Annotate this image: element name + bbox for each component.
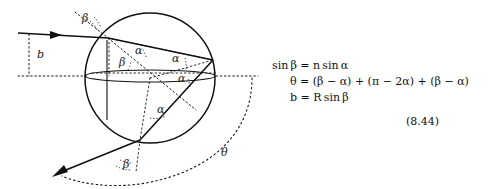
arc-alpha-bottom	[150, 116, 166, 118]
label-alpha-bottom: α	[157, 103, 165, 116]
solid-lines	[18, 13, 215, 174]
label-alpha-upper-right: α	[172, 52, 180, 65]
equation-theta: θ = (β − α) + (π − 2α) + (β − α)	[272, 74, 469, 90]
label-beta-exit: β	[122, 158, 129, 171]
arc-beta-entry	[128, 62, 131, 70]
construction-lines	[18, 12, 258, 186]
label-beta-entry: β	[118, 56, 125, 69]
equation-block: sin β = n sin α θ = (β − α) + (π − 2α) +…	[272, 58, 469, 106]
incoming-ray	[18, 33, 108, 38]
arc-alpha-entry	[142, 48, 146, 57]
arc-alpha-upper-right	[185, 58, 186, 70]
outgoing-arrowhead	[52, 165, 68, 177]
theta-arc	[62, 78, 252, 186]
label-alpha-entry: α	[135, 44, 143, 57]
equation-impact-parameter: b = R sin β	[272, 90, 469, 106]
equation-number: (8.44)	[406, 115, 439, 128]
equation-snell: sin β = n sin α	[272, 58, 469, 74]
equator-ellipse	[85, 70, 215, 82]
arrowheads	[50, 31, 68, 177]
label-alpha-lower-right: α	[178, 72, 186, 85]
incoming-arrowhead	[50, 31, 62, 39]
normal-at-exit-extended	[136, 140, 140, 172]
label-theta: θ	[221, 146, 228, 159]
label-b-impact: b	[37, 48, 44, 61]
label-beta-top: β	[81, 12, 88, 25]
